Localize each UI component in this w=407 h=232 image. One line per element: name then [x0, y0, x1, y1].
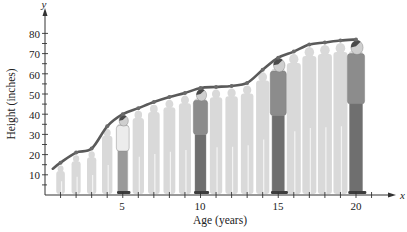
x-axis-title: Age (years) [193, 214, 247, 227]
x-tick-label: 15 [273, 200, 285, 212]
data-point [199, 86, 203, 90]
figure-age-20 [347, 40, 366, 194]
y-tick-label: 80 [29, 28, 41, 40]
y-tick-label: 50 [29, 89, 41, 101]
y-axis-title: Height (inches) [5, 68, 18, 139]
data-point [90, 147, 94, 151]
y-tick-label: 30 [29, 129, 41, 141]
x-axis-arrow-icon [388, 193, 396, 198]
data-point [214, 85, 218, 89]
data-point [338, 38, 342, 42]
x-tick-label: 20 [351, 200, 363, 212]
data-point [152, 100, 156, 104]
x-axis-variable: x [399, 189, 405, 201]
data-point [183, 91, 187, 95]
data-point [74, 151, 78, 155]
data-point [230, 84, 234, 88]
data-point [245, 81, 249, 85]
x-tick-label: 5 [119, 200, 125, 212]
height-vs-age-chart: 5 10 15 20 10 20 30 40 50 60 70 80 y x A… [0, 0, 407, 232]
data-point [167, 95, 171, 99]
figure-age-10 [193, 89, 209, 194]
data-point [307, 43, 311, 47]
data-point [121, 112, 125, 116]
growth-silhouettes [56, 42, 363, 194]
y-axis-variable: y [41, 0, 47, 10]
y-tick-label: 20 [29, 149, 41, 161]
y-tick-label: 40 [29, 109, 41, 121]
data-point [354, 37, 358, 41]
data-point [136, 106, 140, 110]
figure-age-5 [116, 115, 130, 194]
x-tick-label: 10 [195, 200, 207, 212]
data-point [105, 124, 109, 128]
data-point [292, 50, 296, 54]
data-point [323, 40, 327, 44]
y-tick-label: 70 [29, 48, 41, 60]
figure-age-15 [270, 59, 288, 194]
y-tick-label: 10 [29, 169, 41, 181]
data-point [276, 56, 280, 60]
y-axis [42, 8, 48, 195]
data-point [59, 161, 63, 165]
data-point [261, 68, 265, 72]
y-tick-label: 60 [29, 69, 41, 81]
